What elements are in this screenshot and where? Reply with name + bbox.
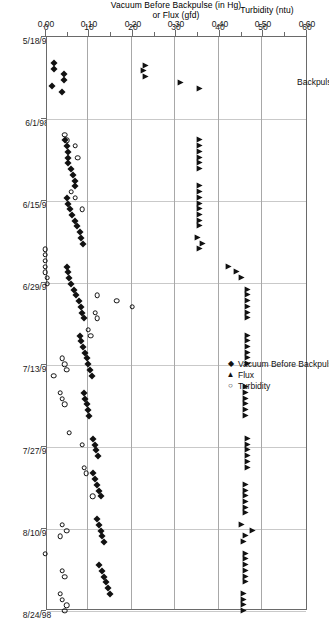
x-axis-tick [41,36,46,37]
data-point-vacuum-before-backpulse [97,493,104,500]
data-point-turbidity [92,310,97,315]
chart-annotation: Backpulse Fequency set to 10 minutes [297,77,329,87]
data-point-vacuum-before-backpulse [48,82,55,89]
right-axis-tick [176,30,177,36]
gridline-vertical [47,119,306,120]
legend-marker-icon: ◆ [226,359,235,368]
right-axis-tick-label: 0.50 [255,19,272,29]
data-point-turbidity [62,608,67,613]
gridline-vertical [47,611,306,612]
data-point-turbidity [62,132,67,137]
data-point-turbidity [60,396,65,401]
data-point-flux [225,263,231,269]
data-point-flux [241,607,247,613]
data-point-turbidity [62,361,67,366]
data-point-turbidity [60,522,65,527]
gridline-horizontal [218,37,219,609]
data-point-turbidity [42,258,47,263]
right-axis-tick [306,30,307,36]
data-point-vacuum-before-backpulse [101,539,108,546]
left-axis-title: Vacuum Before Backpulse (in Hg)or Flux (… [111,0,242,20]
data-point-turbidity [42,551,47,556]
x-axis-tick [41,446,46,447]
right-axis-tick [45,30,46,36]
data-point-turbidity [114,298,119,303]
right-axis-tick-label: 0.60 [299,19,316,29]
data-point-vacuum-before-backpulse [95,452,102,459]
data-point-flux [197,246,203,252]
data-point-flux [243,510,249,516]
legend-item[interactable]: ○Turbidity [226,380,329,391]
data-point-turbidity [58,390,63,395]
legend-marker-icon: ▲ [226,370,235,379]
data-point-turbidity [73,143,78,148]
data-point-turbidity [66,430,71,435]
chart-figure: Vacuum Before Backpulse (in Hg)or Flux (… [0,0,329,639]
chart-legend: ◆Vacuum Before Backpulse▲Flux○Turbidity [226,358,329,391]
data-point-vacuum-before-backpulse [72,183,79,190]
data-point-vacuum-before-backpulse [59,88,66,95]
legend-item-label: Turbidity [238,381,270,391]
gridline-horizontal [175,37,176,609]
data-point-turbidity [64,367,69,372]
data-point-turbidity [90,493,95,498]
data-point-flux [197,223,203,229]
data-point-turbidity [79,206,84,211]
x-axis-tick [41,200,46,201]
right-axis-tick [89,30,90,36]
right-axis-tick-label: 0.40 [212,19,229,29]
data-point-turbidity [58,591,63,596]
data-point-turbidity [73,195,78,200]
right-axis-tick [263,30,264,36]
right-axis-tick [241,32,242,36]
x-axis-tick [41,528,46,529]
right-axis-tick-label: 0.30 [168,19,185,29]
chart-figure-wrapper: Vacuum Before Backpulse (in Hg)or Flux (… [0,0,329,639]
right-axis-title: Turbidity (ntu) [240,5,294,15]
legend-item[interactable]: ◆Vacuum Before Backpulse [226,358,329,369]
data-point-turbidity [75,155,80,160]
data-point-vacuum-before-backpulse [60,76,67,83]
right-axis-tick-label: 0.10 [81,19,98,29]
data-point-flux [243,412,249,418]
data-point-turbidity [64,603,69,608]
data-point-vacuum-before-backpulse [50,65,57,72]
x-axis-tick [41,282,46,283]
legend-item-label: Flux [238,370,254,380]
legend-item-label: Vacuum Before Backpulse [238,359,329,369]
data-point-vacuum-before-backpulse [107,590,114,597]
gridline-horizontal [131,37,132,609]
data-point-flux [245,464,251,470]
data-point-turbidity [42,252,47,257]
gridline-horizontal [88,37,89,609]
legend-item[interactable]: ▲Flux [226,369,329,380]
data-point-turbidity [64,528,69,533]
data-point-turbidity [64,138,69,143]
right-axis-tick-label: 0.20 [125,19,142,29]
right-axis-tick [219,30,220,36]
right-axis-tick [154,32,155,36]
data-point-turbidity [58,534,63,539]
data-point-turbidity [45,275,50,280]
data-point-vacuum-before-backpulse [86,412,93,419]
data-point-turbidity [60,597,65,602]
data-point-flux [197,165,203,171]
data-point-turbidity [60,356,65,361]
gridline-vertical [47,201,306,202]
data-point-turbidity [51,373,56,378]
data-point-flux [178,79,184,85]
data-point-turbidity [95,293,100,298]
right-axis-tick [284,32,285,36]
data-point-turbidity [82,465,87,470]
x-axis-tick [41,118,46,119]
data-point-vacuum-before-backpulse [80,240,87,247]
right-axis-tick-label: 0.00 [38,19,55,29]
data-point-turbidity [60,568,65,573]
right-axis-tick [110,32,111,36]
data-point-flux [241,538,247,544]
x-axis-tick [41,610,46,611]
right-axis-tick [197,32,198,36]
data-point-flux [238,274,244,280]
data-point-turbidity [62,402,67,407]
data-point-flux [245,315,251,321]
